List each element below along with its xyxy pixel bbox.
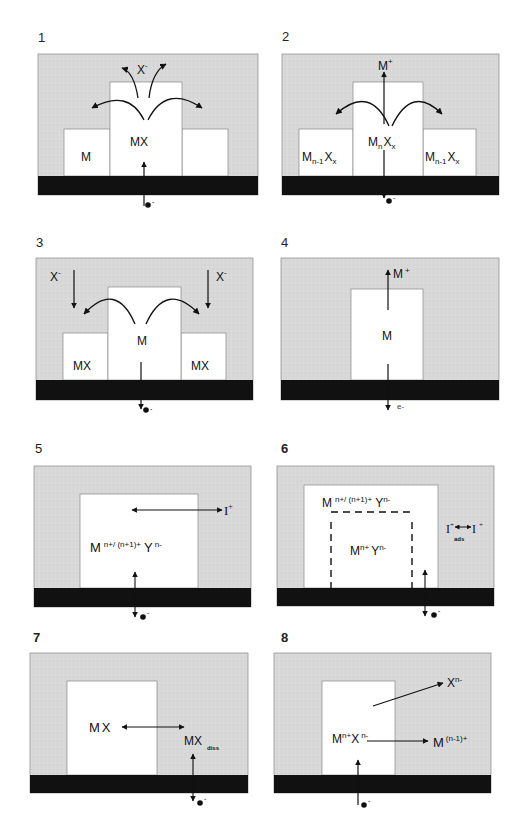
species-label: M — [382, 329, 392, 343]
substrate-bar — [36, 380, 253, 400]
panel-label: 1 — [38, 30, 45, 45]
panel-3: 3 X- X- M MX MX - — [36, 235, 253, 413]
electron-charge: - — [438, 607, 441, 614]
substrate-bar — [30, 775, 248, 793]
electron-icon — [143, 407, 149, 413]
electron-charge: - — [368, 797, 371, 804]
electron-icon — [361, 802, 367, 808]
deposit-center — [110, 82, 182, 176]
panel-label: 7 — [33, 630, 40, 645]
substrate-bar — [274, 775, 491, 793]
corrosion-mechanism-figure: 1 X- MX M - 2 M+ MnXx Mn-1Xx Mn-1Xx - — [0, 0, 517, 821]
subscript-label: ads — [454, 536, 465, 542]
substrate-bar — [282, 176, 499, 195]
substrate-bar — [34, 588, 251, 607]
electron-icon — [140, 614, 146, 620]
panel-5: 5 I+ Mn+/ (n+1)+Yn- - — [34, 441, 251, 620]
electron-charge: - — [204, 795, 207, 802]
panel-label: 5 — [35, 441, 42, 456]
electron-charge: - — [147, 609, 150, 616]
species-label: MX — [89, 720, 113, 735]
panel-4: 4 M+ M e- — [281, 235, 499, 411]
substrate-bar — [38, 176, 258, 195]
substrate-bar — [277, 588, 494, 606]
panel-8: 8 Mn+Xn- Xn- M(n-1)+ - — [274, 630, 491, 808]
species-label: MX — [130, 135, 148, 149]
species-label: MX — [191, 359, 209, 373]
panel-6: 6 Mn+/ (n+1)+Yn- Mn+Yn- I+ I+ ads - — [277, 441, 494, 618]
panel-2: 2 M+ MnXx Mn-1Xx Mn-1Xx - — [282, 29, 499, 204]
species-label: M — [81, 150, 91, 164]
panel-label: 2 — [282, 29, 289, 44]
electron-icon — [386, 198, 392, 204]
electron-charge: - — [150, 405, 153, 412]
panel-1: 1 X- MX M - — [38, 30, 258, 208]
panel-label: 6 — [281, 441, 288, 456]
panel-label: 4 — [281, 235, 288, 250]
panel-7: 7 MX MXdiss - — [30, 630, 248, 806]
electron-icon — [431, 612, 437, 618]
electron-charge: - — [152, 198, 155, 205]
panel-label: 3 — [36, 235, 43, 250]
electron-icon — [145, 202, 151, 208]
panel-label: 8 — [281, 630, 288, 645]
deposit-center — [353, 82, 423, 176]
species-label: M — [137, 334, 147, 348]
species-label: MX — [73, 359, 91, 373]
electron-icon — [197, 800, 203, 806]
substrate-bar — [281, 380, 499, 400]
electron-label: e- — [397, 402, 404, 411]
deposit-right — [182, 129, 228, 176]
